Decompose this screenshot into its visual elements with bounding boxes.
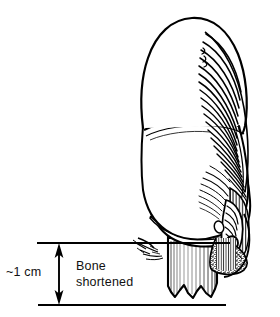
bone-shortened-callout: Boneshortened [76, 258, 133, 291]
bone-shortened-line2: shortened [76, 275, 133, 289]
fingertip-bone-shortening-illustration [0, 0, 280, 317]
bone-shortened-line1: Bone [76, 259, 106, 273]
measurement-label: ~1 cm [6, 264, 41, 280]
figure-root: ~1 cm Boneshortened [0, 0, 280, 317]
